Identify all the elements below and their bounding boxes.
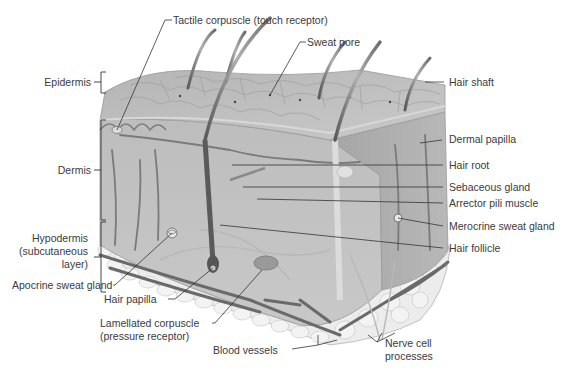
label-epidermis: Epidermis bbox=[44, 76, 91, 88]
label-pressure-receptor: (pressure receptor) bbox=[100, 330, 189, 342]
label-hair-papilla: Hair papilla bbox=[104, 293, 157, 305]
label-hypodermis: Hypodermis bbox=[32, 232, 88, 244]
label-tactile-corpuscle: Tactile corpuscle (touch receptor) bbox=[173, 14, 328, 26]
label-arrector-pili-muscle: Arrector pili muscle bbox=[449, 197, 538, 209]
skin-diagram: Tactile corpuscle (touch receptor) Sweat… bbox=[0, 0, 563, 371]
label-nerve-cell: Nerve cell bbox=[385, 337, 432, 349]
label-blood-vessels: Blood vessels bbox=[213, 344, 278, 356]
label-hypodermis-layer: layer) bbox=[62, 258, 88, 270]
label-nerve-processes: processes bbox=[385, 350, 433, 362]
label-sebaceous-gland: Sebaceous gland bbox=[449, 181, 530, 193]
label-sweat-pore: Sweat pore bbox=[307, 36, 360, 48]
label-hair-follicle: Hair follicle bbox=[449, 242, 500, 254]
label-hypodermis-sub: (subcutaneous bbox=[19, 245, 88, 257]
label-hair-root: Hair root bbox=[449, 159, 489, 171]
label-dermis: Dermis bbox=[58, 164, 91, 176]
label-merocrine-sweat-gland: Merocrine sweat gland bbox=[449, 220, 555, 232]
label-dermal-papilla: Dermal papilla bbox=[449, 133, 516, 145]
label-apocrine-sweat-gland: Apocrine sweat gland bbox=[12, 279, 112, 291]
label-hair-shaft: Hair shaft bbox=[449, 76, 494, 88]
label-lamellated-corpuscle: Lamellated corpuscle bbox=[100, 317, 199, 329]
